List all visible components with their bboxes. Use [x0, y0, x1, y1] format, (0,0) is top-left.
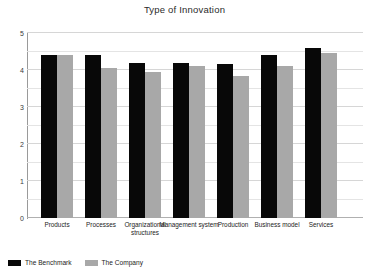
bar-group: Processes [85, 33, 117, 218]
bar-benchmark[interactable] [85, 55, 101, 218]
y-tick-label: 0 [4, 215, 24, 222]
y-axis-tick-labels: 012345 [0, 33, 24, 218]
bar-benchmark[interactable] [41, 55, 57, 218]
legend-item[interactable]: The Benchmark [8, 259, 72, 266]
bar-benchmark[interactable] [305, 48, 321, 218]
plot-area: ProductsProcessesOrganizational structur… [27, 33, 363, 218]
bar-chart: Type of Innovation 012345 ProductsProces… [0, 0, 369, 274]
legend-item[interactable]: The Company [85, 259, 143, 266]
chart-legend: The BenchmarkThe Company [8, 259, 143, 266]
legend-label: The Company [102, 259, 143, 266]
bar-benchmark[interactable] [173, 63, 189, 218]
bar-group: Services [305, 33, 337, 218]
chart-title: Type of Innovation [0, 4, 369, 15]
legend-swatch-company [85, 260, 98, 266]
y-tick-label: 5 [4, 30, 24, 37]
y-tick-label: 4 [4, 67, 24, 74]
bar-benchmark[interactable] [129, 63, 145, 218]
bar-company[interactable] [321, 53, 337, 218]
legend-swatch-benchmark [8, 260, 21, 266]
bar-group: Management system [173, 33, 205, 218]
legend-label: The Benchmark [25, 259, 72, 266]
bar-company[interactable] [101, 68, 117, 218]
bar-benchmark[interactable] [217, 64, 233, 218]
bar-company[interactable] [189, 66, 205, 218]
bar-company[interactable] [277, 66, 293, 218]
x-tick-label: Services [290, 221, 352, 229]
bar-company[interactable] [57, 55, 73, 218]
y-tick-label: 2 [4, 141, 24, 148]
bar-company[interactable] [233, 76, 249, 218]
bar-group: Products [41, 33, 73, 218]
bar-group: Business model [261, 33, 293, 218]
bar-benchmark[interactable] [261, 55, 277, 218]
bar-group: Production [217, 33, 249, 218]
y-tick-label: 3 [4, 104, 24, 111]
y-tick-label: 1 [4, 178, 24, 185]
bar-group: Organizational structures [129, 33, 161, 218]
bar-company[interactable] [145, 72, 161, 218]
